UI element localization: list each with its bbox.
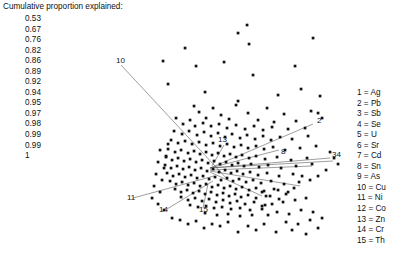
scatter-point — [210, 135, 213, 138]
legend-entry: 15 = Th — [357, 236, 386, 247]
scatter-point — [337, 163, 340, 166]
scatter-point — [220, 114, 223, 117]
scatter-point — [184, 47, 187, 50]
scatter-point — [164, 164, 167, 167]
scatter-point — [246, 134, 249, 137]
scatter-point — [276, 156, 279, 159]
scatter-point — [243, 165, 246, 168]
scatter-point — [189, 204, 192, 207]
scatter-point — [169, 180, 172, 183]
scatter-point — [239, 215, 242, 218]
scatter-point — [226, 177, 229, 180]
scatter-point — [235, 188, 238, 191]
scatter-point — [224, 169, 227, 172]
scatter-point — [208, 178, 211, 181]
scatter-point — [222, 199, 225, 202]
score-points-layer — [151, 24, 340, 236]
legend-entry: 13 = Zn — [357, 215, 386, 226]
scatter-point — [170, 139, 173, 142]
scatter-point — [263, 148, 266, 151]
loading-vector-label: 14 — [159, 205, 168, 214]
scatter-point — [204, 193, 207, 196]
scatter-point — [238, 178, 241, 181]
scatter-point — [178, 173, 181, 176]
scatter-point — [231, 164, 234, 167]
scatter-point — [196, 134, 199, 137]
scatter-point — [181, 181, 184, 184]
scatter-point — [285, 193, 288, 196]
scatter-point — [255, 155, 258, 158]
scatter-point — [267, 214, 270, 217]
scatter-point — [244, 203, 247, 206]
loading-vector-label: 11 — [127, 193, 136, 202]
scatter-point — [187, 199, 190, 202]
legend-entry: 14 = Cr — [357, 225, 386, 236]
scatter-point — [188, 166, 191, 169]
scatter-point — [237, 100, 240, 103]
scatter-point — [205, 144, 208, 147]
scatter-point — [276, 211, 279, 214]
scatter-point — [297, 223, 300, 226]
legend-entry: 10 = Cu — [357, 183, 386, 194]
scatter-point — [262, 135, 265, 138]
scatter-point — [187, 152, 190, 155]
scatter-point — [293, 187, 296, 190]
scatter-point — [155, 173, 158, 176]
scatter-point — [218, 123, 221, 126]
scatter-point — [226, 127, 229, 130]
scatter-point — [261, 191, 264, 194]
scatter-point — [255, 197, 258, 200]
scatter-point — [211, 223, 214, 226]
scatter-point — [267, 164, 270, 167]
scatter-point — [294, 199, 297, 202]
scatter-point — [229, 202, 232, 205]
scatter-point — [299, 147, 302, 150]
scatter-point — [282, 201, 285, 204]
scatter-point — [239, 207, 242, 210]
scatter-point — [189, 119, 192, 122]
scatter-point — [234, 193, 237, 196]
scatter-point — [191, 143, 194, 146]
scatter-point — [249, 171, 252, 174]
scatter-point — [180, 191, 183, 194]
scatter-point — [192, 192, 195, 195]
loading-vector-line — [133, 176, 214, 198]
scatter-point — [194, 169, 197, 172]
scatter-point — [298, 181, 301, 184]
scatter-point — [304, 127, 307, 130]
scatter-point — [171, 217, 174, 220]
scatter-point — [183, 160, 186, 163]
scatter-point — [176, 165, 179, 168]
scatter-point — [195, 161, 198, 164]
scatter-point — [235, 104, 238, 107]
scatter-point — [290, 159, 293, 162]
scatter-point — [251, 214, 254, 217]
legend-entry: 11 = Ni — [357, 193, 386, 204]
scatter-point — [220, 179, 223, 182]
scatter-point — [312, 37, 315, 40]
scatter-point — [265, 195, 268, 198]
scatter-point — [228, 195, 231, 198]
scatter-point — [252, 74, 255, 77]
scatter-point — [236, 200, 239, 203]
scatter-point — [295, 165, 298, 168]
scatter-point — [199, 185, 202, 188]
scatter-point — [172, 175, 175, 178]
scatter-point — [208, 198, 211, 201]
scatter-point — [255, 145, 258, 148]
legend-entry: 2 = Pb — [357, 99, 386, 110]
scatter-point — [255, 187, 258, 190]
legend-entry: 8 = Sn — [357, 162, 386, 173]
legend-entry: 9 = As — [357, 172, 386, 183]
legend-entry: 12 = Co — [357, 204, 386, 215]
scatter-point — [301, 175, 304, 178]
scatter-point — [227, 221, 230, 224]
scatter-point — [258, 166, 261, 169]
scatter-point — [187, 223, 190, 226]
scatter-point — [223, 61, 226, 64]
scatter-point — [216, 194, 219, 197]
scatter-point — [193, 150, 196, 153]
scatter-point — [230, 172, 233, 175]
scatter-point — [231, 133, 234, 136]
scatter-point — [249, 209, 252, 212]
